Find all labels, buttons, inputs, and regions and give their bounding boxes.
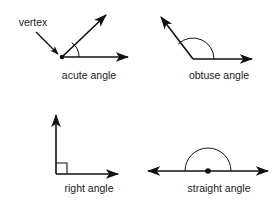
- obtuse-angle-arc: [178, 38, 214, 59]
- panel-straight-angle: straight angle: [148, 148, 268, 194]
- straight-vertex-dot: [205, 168, 211, 174]
- straight-angle-arc: [185, 148, 231, 171]
- panel-acute-angle: acute angle: [60, 15, 128, 81]
- right-angle-caption: right angle: [64, 182, 113, 194]
- vertex-leader-arrow: [36, 32, 58, 54]
- obtuse-angle-caption: obtuse angle: [189, 69, 249, 81]
- angle-types-figure: acute angle vertex obtuse angle right an…: [0, 0, 278, 205]
- vertex-label: vertex: [19, 16, 48, 28]
- right-angle-square-mark: [56, 163, 67, 174]
- panel-obtuse-angle: obtuse angle: [161, 17, 252, 81]
- panel-right-angle: right angle: [56, 115, 118, 194]
- angle-diagram-canvas: acute angle vertex obtuse angle right an…: [0, 0, 278, 205]
- straight-angle-caption: straight angle: [187, 182, 250, 194]
- acute-vertex-dot: [60, 55, 65, 60]
- vertex-annotation: vertex: [19, 16, 58, 54]
- acute-inclined-ray: [62, 15, 106, 57]
- obtuse-inclined-ray: [161, 17, 193, 59]
- acute-angle-caption: acute angle: [62, 69, 116, 81]
